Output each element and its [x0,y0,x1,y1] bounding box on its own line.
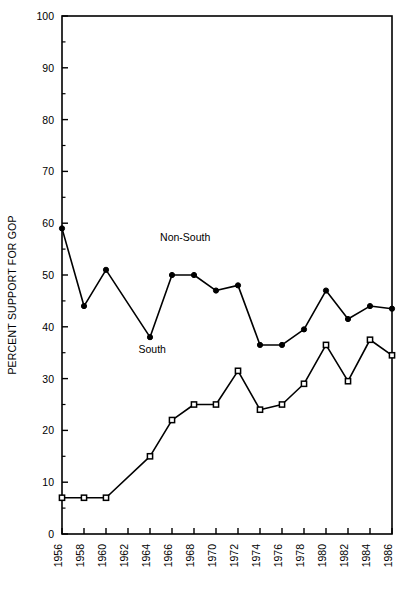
data-point-marker [213,288,218,293]
data-point-marker [213,402,218,407]
data-point-marker [345,316,350,321]
y-tick-label: 100 [36,10,54,22]
x-tick-label: 1986 [382,544,394,568]
data-point-marker [389,306,394,311]
data-point-marker [301,381,306,386]
x-tick-label: 1972 [228,544,240,568]
data-point-marker [191,272,196,277]
data-point-marker [235,368,240,373]
data-point-marker [389,353,394,358]
y-tick-label: 60 [42,217,54,229]
y-axis-tick-labels: 0102030405060708090100 [36,10,54,540]
data-point-marker [345,379,350,384]
x-tick-label: 1984 [360,544,372,568]
y-tick-label: 0 [48,528,54,540]
y-tick-label: 40 [42,321,54,333]
plot-area-border [62,16,392,534]
data-point-marker [81,495,86,500]
data-point-marker [169,417,174,422]
x-tick-label: 1968 [184,544,196,568]
x-tick-label: 1978 [294,544,306,568]
y-axis-title: PERCENT SUPPORT FOR GOP [6,215,18,374]
x-tick-label: 1982 [338,544,350,568]
data-point-marker [103,267,108,272]
percent-support-for-gop-line-chart: 0102030405060708090100 19561958196019621… [0,0,409,590]
data-point-marker [147,454,152,459]
data-point-marker [279,342,284,347]
x-axis-tick-labels: 1956195819601962196419661968197019721974… [52,544,394,568]
x-tick-label: 1974 [250,544,262,568]
data-point-marker [103,495,108,500]
y-tick-label: 90 [42,62,54,74]
x-tick-label: 1976 [272,544,284,568]
data-point-marker [257,407,262,412]
data-point-marker [169,272,174,277]
y-tick-label: 50 [42,269,54,281]
x-tick-label: 1966 [162,544,174,568]
y-tick-label: 80 [42,114,54,126]
data-point-marker [323,288,328,293]
y-tick-label: 70 [42,165,54,177]
x-tick-label: 1980 [316,544,328,568]
data-point-marker [367,337,372,342]
data-point-marker [367,303,372,308]
data-point-marker [257,342,262,347]
data-point-marker [81,303,86,308]
data-point-marker [147,335,152,340]
data-point-marker [191,402,196,407]
series-label-non-south: Non-South [160,231,210,243]
y-tick-label: 30 [42,373,54,385]
x-tick-label: 1958 [74,544,86,568]
data-point-marker [235,283,240,288]
plot-frame [62,16,392,534]
x-tick-label: 1956 [52,544,64,568]
chart-container: 0102030405060708090100 19561958196019621… [0,0,409,590]
x-tick-label: 1962 [118,544,130,568]
y-tick-label: 10 [42,476,54,488]
x-tick-label: 1960 [96,544,108,568]
y-tick-label: 20 [42,424,54,436]
series-label-south: South [138,343,166,355]
data-point-marker [279,402,284,407]
x-tick-label: 1964 [140,544,152,568]
data-point-marker [301,327,306,332]
x-tick-label: 1970 [206,544,218,568]
data-point-marker [59,495,64,500]
data-point-marker [323,342,328,347]
data-point-marker [59,226,64,231]
